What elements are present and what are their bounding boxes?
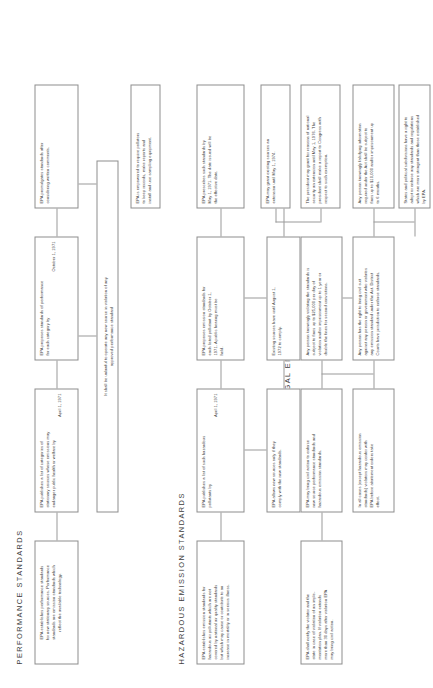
node-line: April 1, 1971 <box>212 393 218 507</box>
node-line: subject to fines up to $25,000 per day o… <box>310 241 316 355</box>
connector <box>78 183 96 184</box>
connector <box>283 360 284 388</box>
node-citizen-suit-right: Any person has the right to bring civil … <box>352 236 394 360</box>
node-line: EPA may grant existing sources an <box>264 89 270 203</box>
node-line: but which may cause or contribute to an <box>218 545 224 659</box>
connector <box>220 208 221 236</box>
node-line: May 1, 1971. The date issued will be <box>206 89 212 203</box>
node-line: against any person or government who vio… <box>362 241 368 355</box>
connector <box>320 208 321 222</box>
node-line: EPA proposes standards of performance <box>38 241 44 355</box>
node-line: EPA establishes performance standards <box>38 545 44 659</box>
section-heading-performance-standards: PERFORMANCE STANDARDS <box>14 529 23 664</box>
connector <box>414 208 415 236</box>
node-line: respect to such exemption. <box>322 89 328 203</box>
node-line: each listed pollutant by October 1, <box>206 241 212 355</box>
connector <box>56 512 57 540</box>
node-line: considering written comments. <box>44 89 50 203</box>
node-line: EPA publishes a list of categories of <box>38 393 44 507</box>
node-line: president shall make a report to Congres… <box>316 89 322 203</box>
node-line: to 6 months. <box>374 89 380 203</box>
node-line: Existing sources have until August 1, <box>270 241 276 355</box>
node-line: security an extension until May 1, 1976.… <box>310 89 316 203</box>
node-line: EPA allows new sources only if they <box>270 393 276 507</box>
node-epa-proposes-hazardous-emission-standards: EPA proposes emission standards for each… <box>196 236 244 360</box>
node-line: required under the Act shall be subject … <box>362 89 368 203</box>
node-epa-promulgates-standards: EPA promulgates standards after consider… <box>34 84 78 208</box>
node-line: States and political subdivisions have a… <box>402 89 408 203</box>
node-line: hazardous air pollutants which are not <box>206 545 212 659</box>
connector <box>78 335 96 336</box>
node-line: The president may grant for reasons of n… <box>304 89 310 203</box>
connector <box>342 297 352 298</box>
connector <box>56 360 57 388</box>
node-line: held. <box>218 241 224 355</box>
node-line: EPA is empowered to require pollutors <box>134 89 140 203</box>
node-unlawful-to-operate-new-source: It shall be unlawful to operate any new … <box>96 160 118 512</box>
node-epa-publishes-source-categories: EPA publishes a list of categories of st… <box>34 388 78 512</box>
connector <box>275 221 320 222</box>
node-line: effect. <box>374 393 380 507</box>
connector <box>56 208 57 236</box>
node-line: comply with the new standards. <box>276 393 282 507</box>
node-line: April 1, 1971 <box>56 393 62 507</box>
node-line: reflect the available technology. <box>56 545 62 659</box>
node-line: which are more stringent than those esta… <box>414 89 420 203</box>
node-line: extension until May 1, 1974. <box>270 89 276 203</box>
node-line: EPA may bring civil action to enforce <box>304 393 310 507</box>
node-line: increase in mortality or in serious illn… <box>224 545 230 659</box>
connector <box>321 373 373 374</box>
node-line: state in case of violation of an imple- <box>310 545 316 659</box>
connector <box>275 208 276 222</box>
node-line: hazardous emission standards. <box>316 393 322 507</box>
node-epa-publishes-hazardous-pollutant-list: EPA publishes a list of such hazardous p… <box>196 388 244 512</box>
node-epa-proposes-performance-standards: EPA proposes standards of performance fo… <box>34 236 78 360</box>
node-line: mentation plan. If violation extends <box>316 545 322 659</box>
node-line: by EPA. <box>420 89 426 203</box>
node-line: EPA before abatement orders take <box>368 393 374 507</box>
node-state-stringency-rights: States and political subdivisions have a… <box>398 84 430 208</box>
node-epa-empowered-recordkeeping: EPA is empowered to require pollutors to… <box>130 84 160 208</box>
node-line: 1972 to comply. <box>276 241 282 355</box>
node-line: to keep records, make reports and <box>140 89 146 203</box>
node-hazardous-standards-established: EPA establishes emission standards for h… <box>196 540 244 664</box>
connector <box>220 360 221 388</box>
node-line: EPA establishes emission standards for <box>200 545 206 659</box>
node-line: install and use sampling equipment. <box>146 89 152 203</box>
connector <box>321 512 322 540</box>
node-line: standards are emission standards which <box>50 545 56 659</box>
node-line: EPA promulgates standards after <box>38 89 44 203</box>
node-line: more than 30 days after violation EPA <box>322 545 328 659</box>
connector <box>373 221 414 222</box>
node-line: for new stationary sources. Performance <box>44 545 50 659</box>
node-line: Any person knowingly falsifying informat… <box>356 89 362 203</box>
node-line: covered by national air quality standard… <box>212 545 218 659</box>
node-performance-standards-established: EPA establishes performance standards fo… <box>34 540 78 664</box>
node-line: It shall be unlawful to operate any new … <box>102 165 108 507</box>
node-line: October 1, 1971 <box>50 241 56 355</box>
page-rotator: PERFORMANCE STANDARDS HAZARDOUS EMISSION… <box>0 0 433 688</box>
node-line: EPA publishes a list of such hazardous <box>200 393 206 507</box>
node-line: EPA proposes emission standards for <box>200 241 206 355</box>
node-line: adopt or enforce any standards and regul… <box>408 89 414 203</box>
node-existing-sources-compliance-deadline: Existing sources have until August 1, 19… <box>266 236 300 360</box>
node-president-national-security-extension: The president may grant for reasons of n… <box>300 84 340 208</box>
node-line: for each category by <box>44 241 50 355</box>
node-epa-allows-new-sources: EPA allows new sources only if they comp… <box>266 388 300 512</box>
node-line: EPA prescribes such standards by <box>200 89 206 203</box>
node-epa-shall-notify-violator: EPA shall notify the violator and the st… <box>300 540 342 664</box>
node-line: may bring civil action. <box>328 545 334 659</box>
node-line: new source performance standards and <box>310 393 316 507</box>
node-line: Courts have jurisdiction to enforce stan… <box>374 241 380 355</box>
connector <box>244 449 266 450</box>
node-line: standards) violators may confer with <box>362 393 368 507</box>
node-line: Any person has the right to bring civil … <box>356 241 362 355</box>
node-line: approved performance standard <box>108 165 114 507</box>
connector <box>220 512 221 540</box>
node-line: Any person knowingly violating the stand… <box>304 241 310 355</box>
node-line: stationary sources whose emissions may <box>44 393 50 507</box>
node-knowing-violation-penalties: Any person knowingly violating the stand… <box>300 236 342 360</box>
section-heading-hazardous-emission-standards: HAZARDOUS EMISSION STANDARDS <box>176 492 185 664</box>
node-line: In all cases (except hazardous emission <box>356 393 362 507</box>
node-line: double the fines for second convictions. <box>322 241 328 355</box>
